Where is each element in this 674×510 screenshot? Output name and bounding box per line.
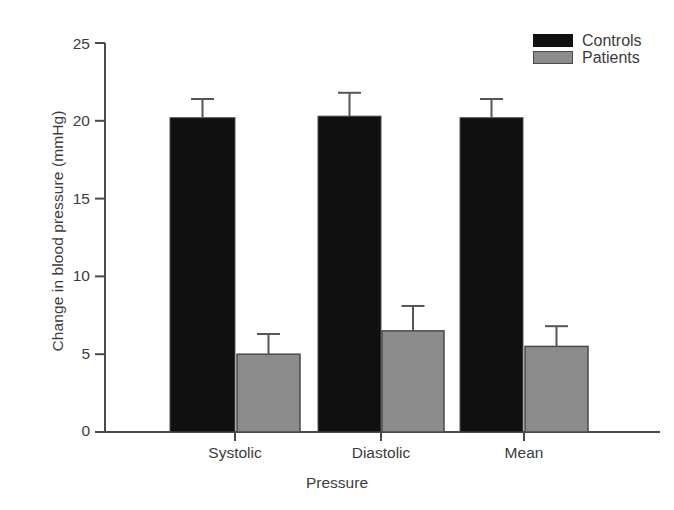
- plot-area: [0, 0, 674, 510]
- gray-swatch-icon: [533, 51, 573, 64]
- legend-label-patients: Patients: [582, 50, 640, 66]
- x-tick-label-systolic: Systolic: [165, 444, 305, 462]
- bar-chart-figure: Change in blood pressure (mmHg) 25 20 15…: [0, 0, 674, 510]
- legend-item-patients: Patients: [533, 49, 642, 66]
- legend-label-controls: Controls: [582, 33, 642, 49]
- bar-controls-mean: [460, 118, 523, 432]
- cropped-caption-text: [0, 503, 674, 510]
- bar-patients-systolic: [237, 354, 300, 432]
- bar-controls-diastolic: [318, 116, 381, 432]
- bar-patients-diastolic: [382, 331, 444, 432]
- x-axis-title: Pressure: [0, 474, 674, 492]
- x-tick-label-mean: Mean: [454, 444, 594, 462]
- legend-item-controls: Controls: [533, 32, 642, 49]
- bar-patients-mean: [525, 346, 588, 432]
- black-swatch-icon: [533, 34, 573, 47]
- legend: Controls Patients: [533, 32, 642, 66]
- x-tick-label-diastolic: Diastolic: [311, 444, 451, 462]
- bar-controls-systolic: [170, 118, 235, 432]
